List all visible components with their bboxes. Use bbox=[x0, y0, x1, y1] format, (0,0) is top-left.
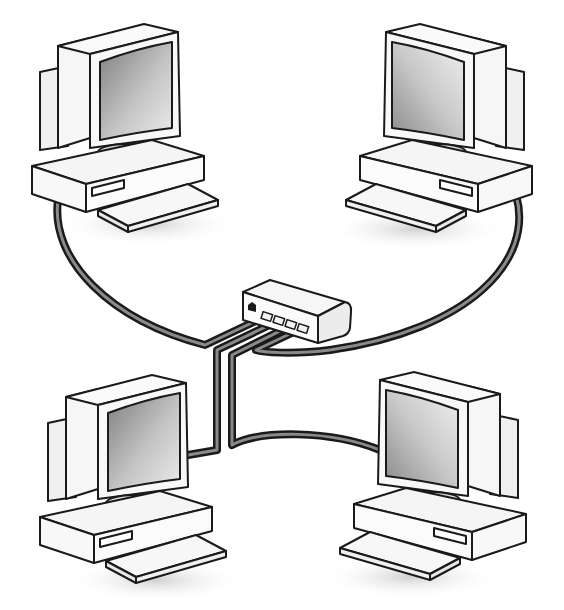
computer-top-right bbox=[326, 24, 532, 251]
computer-bottom-right bbox=[320, 372, 526, 599]
network-diagram bbox=[0, 0, 564, 610]
computer-top-left bbox=[32, 24, 238, 246]
